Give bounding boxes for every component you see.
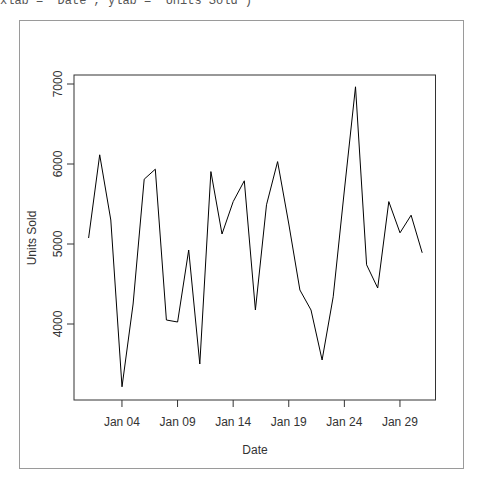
y-axis-title: Units Sold <box>25 211 39 266</box>
x-axis-title: Date <box>242 443 268 457</box>
x-tick-label: Jan 29 <box>382 415 418 429</box>
x-tick-label: Jan 04 <box>104 415 140 429</box>
x-axis: Jan 04Jan 09Jan 14Jan 19Jan 24Jan 29 <box>104 400 418 429</box>
y-axis: 4000500060007000 <box>51 70 74 337</box>
x-tick-label: Jan 24 <box>326 415 362 429</box>
y-tick-label: 5000 <box>51 230 65 257</box>
data-line <box>89 87 423 387</box>
y-tick-label: 7000 <box>51 70 65 97</box>
line-chart: 4000500060007000 Jan 04Jan 09Jan 14Jan 1… <box>0 0 481 484</box>
y-tick-label: 4000 <box>51 310 65 337</box>
x-tick-label: Jan 14 <box>215 415 251 429</box>
x-tick-label: Jan 19 <box>271 415 307 429</box>
y-tick-label: 6000 <box>51 150 65 177</box>
x-tick-label: Jan 09 <box>160 415 196 429</box>
plot-area <box>74 75 436 400</box>
